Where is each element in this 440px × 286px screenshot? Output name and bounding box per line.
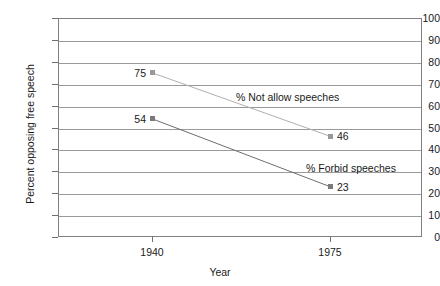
series-annotation: % Not allow speeches <box>236 91 339 103</box>
gridline <box>59 63 421 64</box>
data-point-label: 46 <box>337 130 349 142</box>
data-point-label: 54 <box>134 113 146 125</box>
data-point-label: 75 <box>134 67 146 79</box>
y-axis-title: Percent opposing free speech <box>24 34 36 234</box>
x-tick-label: 1975 <box>290 246 370 258</box>
gridline <box>59 41 421 42</box>
data-point-label: 23 <box>337 181 349 193</box>
gridline <box>59 129 421 130</box>
x-axis-title: Year <box>0 266 440 278</box>
data-point-marker <box>328 184 333 189</box>
gridline <box>59 150 421 151</box>
gridline <box>59 107 421 108</box>
x-tick-mark <box>152 237 153 242</box>
gridline <box>59 194 421 195</box>
plot-area <box>58 18 422 237</box>
x-tick-mark <box>330 237 331 242</box>
data-point-marker <box>150 70 155 75</box>
chart-container: Percent opposing free speech Year 010203… <box>0 0 440 286</box>
data-point-marker <box>150 116 155 121</box>
gridline <box>59 216 421 217</box>
data-point-marker <box>328 134 333 139</box>
gridline <box>59 85 421 86</box>
series-annotation: % Forbid speeches <box>306 162 396 174</box>
x-tick-label: 1940 <box>112 246 192 258</box>
y-tick-mark <box>52 237 58 238</box>
